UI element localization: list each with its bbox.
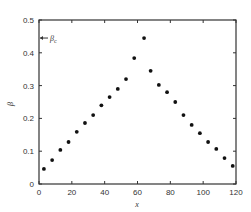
data-point <box>99 103 103 107</box>
y-tick-label: 0 <box>30 180 35 189</box>
data-point <box>91 113 95 117</box>
data-point <box>165 90 169 94</box>
arrow-head-icon <box>40 36 43 40</box>
data-point <box>223 156 227 160</box>
data-point <box>50 158 54 162</box>
chart: 020406080100120 00.10.20.30.40.5 βc x β <box>0 0 251 212</box>
x-tick-label: 120 <box>229 188 243 197</box>
x-tick-label: 60 <box>133 188 142 197</box>
data-point <box>116 87 120 91</box>
data-point <box>149 69 153 73</box>
beta-c-annotation: βc <box>40 34 57 44</box>
y-tick-label: 0.3 <box>23 82 35 91</box>
data-point <box>198 131 202 135</box>
data-point <box>58 148 62 152</box>
data-point <box>190 123 194 127</box>
y-tick-label: 0.1 <box>23 147 35 156</box>
y-tick-label: 0.4 <box>23 49 35 58</box>
x-tick-label: 40 <box>100 188 109 197</box>
y-tick-label: 0.5 <box>23 16 35 25</box>
data-point <box>206 140 210 144</box>
x-axis-label: x <box>134 200 139 209</box>
data-point <box>182 113 186 117</box>
y-axis-label: β <box>6 102 15 107</box>
data-point <box>108 95 112 99</box>
data-point <box>214 147 218 151</box>
data-point <box>67 140 71 144</box>
x-tick-label: 80 <box>166 188 175 197</box>
x-tick-label: 0 <box>37 188 42 197</box>
beta-c-label: βc <box>49 34 57 44</box>
data-point <box>42 167 46 171</box>
data-point <box>157 83 161 87</box>
data-point <box>124 77 128 81</box>
beta-c-subscript: c <box>54 38 57 44</box>
x-tick-label: 100 <box>196 188 210 197</box>
data-point <box>231 164 235 168</box>
x-axis: 020406080100120 <box>37 20 243 197</box>
data-point <box>173 100 177 104</box>
data-point <box>83 121 87 125</box>
data-point <box>132 56 136 60</box>
plot-border <box>39 20 236 184</box>
plot-frame <box>39 20 236 184</box>
data-points <box>42 36 235 171</box>
data-point <box>142 36 146 40</box>
y-tick-label: 0.2 <box>23 114 35 123</box>
data-point <box>75 130 79 134</box>
x-tick-label: 20 <box>67 188 76 197</box>
